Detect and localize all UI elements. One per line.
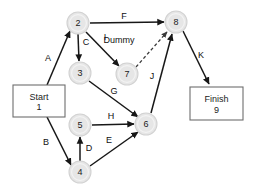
edge-label-dummy: Dummy: [104, 35, 135, 45]
edge-c: [78, 34, 79, 61]
edge-label-f: F: [121, 11, 127, 21]
edge-label-d: D: [86, 143, 93, 153]
edge-label-g: G: [110, 86, 117, 96]
terminal-number-finish: 9: [214, 105, 219, 115]
node-7: 7: [116, 63, 138, 85]
edge-label-j: J: [150, 71, 155, 81]
edge-label-h: H: [108, 111, 115, 121]
terminal-label-finish: Finish: [204, 94, 228, 104]
node-label-2: 2: [75, 18, 80, 28]
node-3: 3: [69, 62, 91, 84]
terminals-layer: Start1Finish9: [13, 85, 243, 120]
node-5: 5: [69, 114, 91, 136]
edge-label-k: K: [198, 50, 204, 60]
terminal-start: Start1: [13, 85, 65, 117]
edge-e: [90, 132, 138, 166]
node-6: 6: [135, 113, 157, 135]
node-label-8: 8: [173, 17, 178, 27]
node-2: 2: [67, 12, 89, 34]
edge-dummy: [136, 32, 167, 67]
edge-b: [47, 117, 71, 165]
edge-k: [183, 31, 209, 84]
node-label-7: 7: [124, 69, 129, 79]
edge-h: [92, 124, 134, 125]
edge-f: [90, 22, 164, 23]
node-label-6: 6: [143, 119, 148, 129]
terminal-finish: Finish9: [190, 87, 243, 120]
edge-label-e: E: [106, 135, 112, 145]
node-label-3: 3: [77, 68, 82, 78]
terminal-label-start: Start: [29, 92, 49, 102]
node-4: 4: [69, 161, 91, 183]
edge-label-c: C: [83, 37, 90, 47]
edge-label-b: B: [43, 137, 49, 147]
edge-label-a: A: [45, 53, 51, 63]
node-label-4: 4: [77, 167, 82, 177]
node-8: 8: [165, 11, 187, 33]
terminal-number-start: 1: [36, 102, 41, 112]
network-diagram-canvas: Start1Finish9 2345678 ABCDEFGHIJKDummy: [0, 0, 259, 193]
node-label-5: 5: [77, 120, 82, 130]
network-diagram: Start1Finish9 2345678 ABCDEFGHIJKDummy: [0, 0, 259, 193]
